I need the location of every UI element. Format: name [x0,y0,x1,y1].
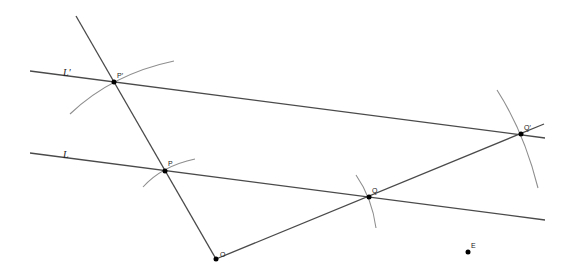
point-p-prime [112,80,117,85]
label-point-e: E [471,242,476,249]
ray-o-p [76,16,216,259]
label-point-p-prime: P′ [117,72,124,79]
point-o [214,257,219,262]
label-point-p: P [168,160,173,167]
point-q-prime [519,132,524,137]
label-point-q: Q [372,187,378,195]
point-q [367,195,372,200]
label-line-l: L [62,149,69,160]
line-l [30,153,545,220]
point-p [163,169,168,174]
ray-o-q [216,124,544,259]
label-point-q-prime: Q′ [524,124,531,132]
arc-at-q-prime [497,90,538,188]
point-e [466,250,471,255]
geometry-diagram: L′ L O P Q P′ Q′ E [0,0,565,277]
line-l-prime [30,71,545,138]
label-point-o: O [220,251,226,258]
label-line-l-prime: L′ [62,67,72,78]
arc-at-q [356,175,376,228]
